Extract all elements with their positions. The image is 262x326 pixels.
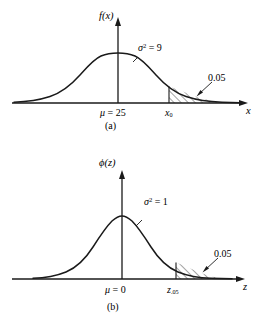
panel-b-tail-area-label: 0.05: [214, 249, 232, 259]
statistics-figure: f(x) σ2 = 9 μ = 25 x0 0.05 x (a) ϕ(z) σ2…: [0, 0, 262, 326]
panel-a-mean-label: μ = 25: [100, 108, 126, 118]
panel-a-x-axis-label: x: [246, 106, 251, 117]
panel-a-variance-label: σ2 = 9: [138, 43, 162, 53]
figure-canvas: [0, 0, 262, 326]
panel-b-y-axis-label: ϕ(z): [99, 158, 116, 169]
panel-b-density-curve: [33, 216, 232, 279]
panel-b-variance-label: σ2 = 1: [144, 197, 168, 207]
panel-b-y-axis: [119, 170, 125, 279]
panel-a-tail-area-label: 0.05: [208, 73, 226, 83]
panel-a-variance-leader: [133, 57, 138, 62]
panel-a-density-curve: [14, 53, 240, 103]
panel-a-y-axis: [115, 17, 121, 103]
panel-b-variance-leader: [136, 220, 142, 226]
panel-a-callout-arrow: [197, 82, 213, 97]
panel-a-caption: (a): [105, 121, 116, 131]
panel-b-graph: [12, 170, 248, 283]
panel-b-x-axis-label: z: [243, 282, 247, 293]
panel-a-y-axis-label: f(x): [99, 11, 114, 22]
panel-a-threshold-label: x0: [165, 108, 173, 119]
panel-b-caption: (b): [107, 302, 119, 312]
panel-b-threshold-label: z.05: [167, 285, 179, 296]
panel-b-mean-label: μ = 0: [105, 285, 126, 295]
panel-a-graph: [12, 17, 250, 108]
panel-b-callout-arrow: [203, 258, 219, 273]
